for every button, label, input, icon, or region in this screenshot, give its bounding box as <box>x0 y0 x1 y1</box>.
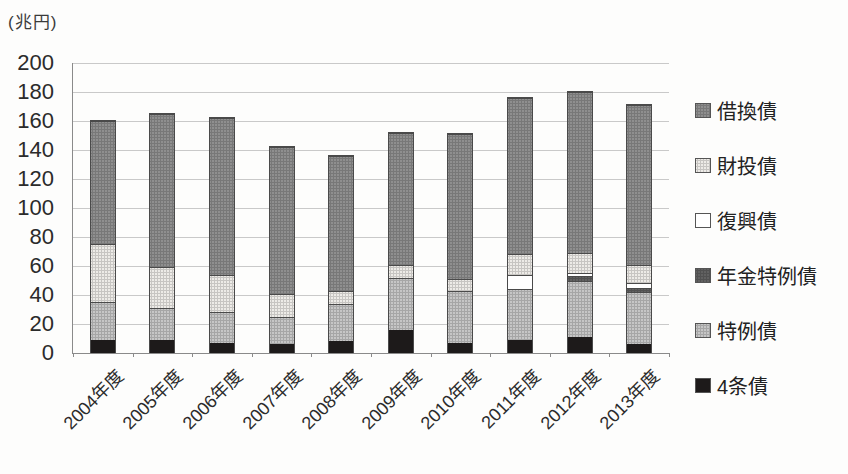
bar-segment-4条債 <box>389 330 413 353</box>
bar-segment-財投債 <box>508 254 532 274</box>
y-tick-label: 140 <box>0 137 54 163</box>
bar-segment-借換債 <box>448 134 472 279</box>
bar-2010年度 <box>447 133 473 353</box>
legend-swatch-icon <box>695 268 711 283</box>
bar-segment-借換債 <box>210 118 234 275</box>
legend-item-特例債: 特例債 <box>695 316 845 345</box>
legend-item-財投債: 財投債 <box>695 151 845 180</box>
bar-segment-特例債 <box>508 289 532 340</box>
chart-legend: 借換債財投債復興債年金特例債特例債4条債 <box>695 96 845 400</box>
bar-segment-特例債 <box>389 278 413 330</box>
x-tick-label: 2012年度 <box>533 362 605 434</box>
x-tick-label: 2010年度 <box>414 362 486 434</box>
x-axis-tick-mark <box>252 353 253 357</box>
y-tick-label: 200 <box>0 50 54 76</box>
gridline <box>73 63 669 64</box>
bar-segment-借換債 <box>329 156 353 291</box>
x-axis-tick-mark <box>133 353 134 357</box>
y-tick-label: 80 <box>0 224 54 250</box>
bar-segment-特例債 <box>210 312 234 342</box>
x-tick-label: 2007年度 <box>235 362 307 434</box>
bar-segment-借換債 <box>91 121 115 244</box>
bar-segment-特例債 <box>150 308 174 340</box>
bar-segment-財投債 <box>210 275 234 313</box>
stacked-bar-chart: (兆円) 020406080100120140160180200 2004年度2… <box>0 0 848 474</box>
bar-segment-復興債 <box>508 275 532 290</box>
bar-segment-借換債 <box>150 114 174 268</box>
bar-segment-財投債 <box>270 294 294 317</box>
legend-item-復興債: 復興債 <box>695 206 845 235</box>
y-tick-label: 60 <box>0 253 54 279</box>
x-tick-label: 2006年度 <box>175 362 247 434</box>
bar-segment-借換債 <box>568 92 592 253</box>
x-axis-tick-mark <box>431 353 432 357</box>
x-tick-label: 2008年度 <box>294 362 366 434</box>
y-tick-label: 20 <box>0 311 54 337</box>
legend-item-年金特例債: 年金特例債 <box>695 261 845 290</box>
y-tick-label: 160 <box>0 108 54 134</box>
bar-segment-特例債 <box>91 302 115 340</box>
x-axis-tick-mark <box>192 353 193 357</box>
legend-label: 借換債 <box>717 96 777 125</box>
bar-segment-借換債 <box>627 105 651 265</box>
legend-swatch-icon <box>695 213 711 228</box>
bar-segment-借換債 <box>389 133 413 265</box>
x-tick-label: 2004年度 <box>56 362 128 434</box>
legend-label: 復興債 <box>717 206 777 235</box>
y-tick-label: 180 <box>0 79 54 105</box>
legend-label: 特例債 <box>717 316 777 345</box>
bar-segment-借換債 <box>270 147 294 293</box>
y-tick-label: 0 <box>0 340 54 366</box>
bar-2011年度 <box>507 97 533 353</box>
y-tick-label: 100 <box>0 195 54 221</box>
bar-segment-財投債 <box>627 265 651 284</box>
bar-2008年度 <box>328 155 354 353</box>
bar-segment-借換債 <box>508 98 532 255</box>
bar-segment-特例債 <box>329 304 353 342</box>
legend-label: 4条債 <box>717 371 768 400</box>
x-axis-tick-mark <box>371 353 372 357</box>
legend-label: 財投債 <box>717 151 777 180</box>
bar-segment-4条債 <box>210 343 234 353</box>
bar-segment-財投債 <box>91 244 115 302</box>
bar-segment-財投債 <box>448 279 472 291</box>
x-tick-label: 2009年度 <box>354 362 426 434</box>
y-tick-label: 120 <box>0 166 54 192</box>
bar-segment-4条債 <box>508 340 532 353</box>
legend-swatch-icon <box>695 323 711 338</box>
x-axis-tick-mark <box>609 353 610 357</box>
y-axis-tick-labels: 020406080100120140160180200 <box>0 0 62 474</box>
bar-2013年度 <box>626 104 652 353</box>
bar-2004年度 <box>90 120 116 353</box>
x-axis-tick-mark <box>550 353 551 357</box>
bar-segment-4条債 <box>270 344 294 353</box>
legend-swatch-icon <box>695 158 711 173</box>
x-axis-tick-mark <box>311 353 312 357</box>
x-axis-tick-mark <box>669 353 670 357</box>
bar-segment-4条債 <box>91 340 115 353</box>
legend-swatch-icon <box>695 378 711 393</box>
bar-2005年度 <box>149 113 175 353</box>
legend-label: 年金特例債 <box>717 261 817 290</box>
x-axis-tick-mark <box>73 353 74 357</box>
bar-segment-4条債 <box>568 337 592 353</box>
x-axis-tick-mark <box>490 353 491 357</box>
bar-2012年度 <box>567 91 593 353</box>
x-tick-label: 2011年度 <box>474 362 545 433</box>
bar-segment-特例債 <box>270 317 294 345</box>
y-tick-label: 40 <box>0 282 54 308</box>
bar-segment-財投債 <box>568 253 592 273</box>
bar-segment-4条債 <box>627 344 651 353</box>
plot-area <box>72 63 669 354</box>
bar-segment-特例債 <box>568 281 592 338</box>
bar-segment-財投債 <box>329 291 353 304</box>
legend-item-4条債: 4条債 <box>695 371 845 400</box>
bar-segment-特例債 <box>627 292 651 344</box>
bar-segment-4条債 <box>150 340 174 353</box>
bar-segment-財投債 <box>389 265 413 278</box>
bar-2007年度 <box>269 146 295 353</box>
x-tick-label: 2013年度 <box>592 362 664 434</box>
legend-swatch-icon <box>695 103 711 118</box>
bar-segment-特例債 <box>448 291 472 343</box>
bar-segment-財投債 <box>150 267 174 308</box>
